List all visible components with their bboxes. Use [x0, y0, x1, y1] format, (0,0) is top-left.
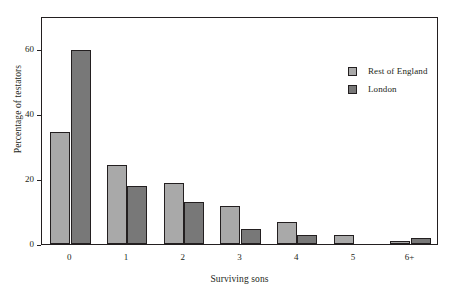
bar-rest-of-england-0 — [50, 132, 70, 244]
bar-rest-of-england-4 — [277, 222, 297, 244]
x-axis-tick-label: 2 — [163, 252, 203, 262]
legend-item-london: London — [348, 80, 428, 98]
bar-london-6plus — [411, 238, 431, 245]
x-axis-tick-label: 4 — [276, 252, 316, 262]
legend-label-london: London — [368, 84, 397, 94]
y-axis-tick-label: 40 — [25, 109, 34, 119]
x-axis-tick-label: 0 — [49, 252, 89, 262]
y-axis-tick-label: 60 — [25, 44, 34, 54]
y-axis-tick-mark — [37, 245, 41, 246]
bar-london-3 — [241, 229, 261, 244]
y-axis-tick: 0 — [0, 245, 41, 246]
x-axis-tick-label: 6+ — [390, 252, 430, 262]
y-axis-tick: 40 — [0, 115, 41, 116]
x-axis-title: Surviving sons — [41, 274, 438, 284]
y-axis-tick-label: 20 — [25, 174, 34, 184]
bar-london-1 — [127, 186, 147, 244]
x-axis-tick-label: 5 — [333, 252, 373, 262]
bar-rest-of-england-3 — [220, 206, 240, 244]
legend-item-rest-of-england: Rest of England — [348, 62, 428, 80]
bar-rest-of-england-2 — [164, 183, 184, 244]
plot-area: Rest of England London — [41, 17, 438, 245]
legend-label-rest-of-england: Rest of England — [368, 66, 428, 76]
x-axis-tick-label: 1 — [106, 252, 146, 262]
legend-swatch-icon-london — [348, 85, 357, 94]
bar-rest-of-england-1 — [107, 165, 127, 244]
chart-legend: Rest of England London — [348, 62, 428, 98]
bar-london-4 — [297, 235, 317, 244]
bar-chart-figure: Percentage of testators 0204060 Rest of … — [0, 0, 451, 299]
bar-rest-of-england-6plus — [390, 241, 410, 244]
bar-rest-of-england-5 — [334, 235, 354, 244]
bar-london-0 — [71, 50, 91, 244]
legend-swatch-icon-rest-of-england — [348, 67, 357, 76]
x-axis-tick-label: 3 — [220, 252, 260, 262]
y-axis-tick-label: 0 — [30, 239, 35, 249]
bar-london-2 — [184, 202, 204, 244]
y-axis-tick: 20 — [0, 180, 41, 181]
y-axis-tick: 60 — [0, 50, 41, 51]
